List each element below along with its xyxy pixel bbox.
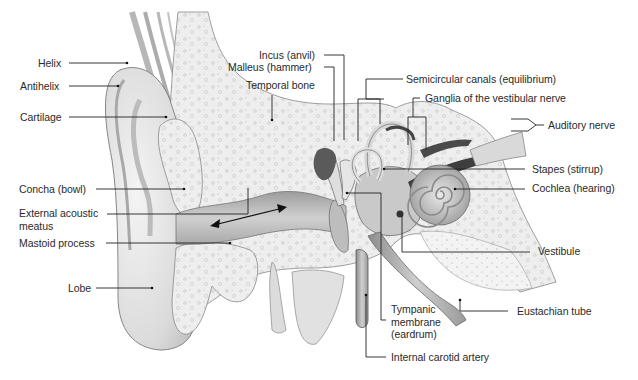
label-temporal-bone: Temporal bone (246, 79, 315, 92)
label-concha: Concha (bowl) (19, 183, 86, 196)
label-antihelix: Antihelix (20, 80, 59, 93)
label-malleus: Malleus (hammer) (228, 61, 312, 74)
label-helix: Helix (38, 57, 61, 70)
label-tympanic-membrane: Tympanic membrane (eardrum) (391, 303, 441, 341)
lower-bone (292, 270, 344, 344)
label-semicircular-canals: Semicircular canals (equilibrium) (406, 73, 556, 86)
label-eustachian-tube: Eustachian tube (517, 305, 592, 318)
label-cochlea: Cochlea (hearing) (532, 182, 615, 195)
label-internal-carotid-artery: Internal carotid artery (391, 351, 489, 364)
label-mastoid-process: Mastoid process (19, 237, 95, 250)
label-stapes: Stapes (stirrup) (532, 163, 603, 176)
label-ganglia-vestibular-nerve: Ganglia of the vestibular nerve (425, 92, 566, 105)
label-vestibule: Vestibule (538, 245, 580, 258)
label-incus: Incus (anvil) (259, 49, 315, 62)
mastoid-process-shape (172, 242, 258, 334)
label-auditory-nerve: Auditory nerve (548, 119, 615, 132)
label-cartilage: Cartilage (20, 111, 62, 124)
styloid-process-shape (270, 262, 286, 333)
label-external-acoustic-meatus: External acoustic meatus (19, 207, 98, 232)
ear-anatomy-diagram: Helix Antihelix Cartilage Concha (bowl) … (0, 0, 638, 380)
label-lobe: Lobe (68, 282, 91, 295)
